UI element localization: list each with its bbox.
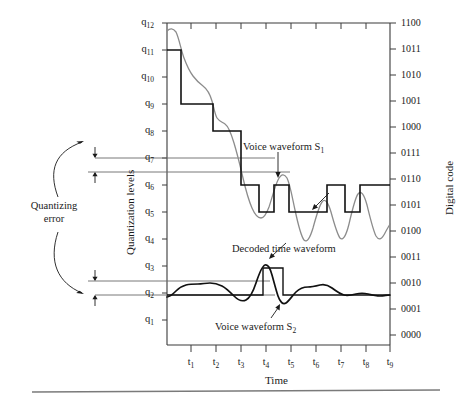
voice-s1-leader — [275, 152, 280, 178]
y-tick-label-q8: q8 — [128, 125, 154, 138]
lower-error-guides — [88, 270, 275, 306]
y2-tick-label-1011: 1011 — [401, 44, 421, 54]
quantizing-error-line-2: error — [17, 214, 91, 225]
y2-tick-label-0100: 0100 — [401, 226, 421, 236]
x-ticks — [191, 345, 390, 352]
x-tick-label-t8: t8 — [356, 357, 376, 370]
x-tick-label-t5: t5 — [281, 357, 301, 370]
bottom-rule — [32, 390, 440, 392]
voice-waveform-s2-curve — [167, 265, 390, 304]
y2-tick-label-1000: 1000 — [401, 122, 421, 132]
y2-tick-label-1010: 1010 — [401, 70, 421, 80]
x-tick-label-t9: t9 — [380, 357, 400, 370]
pcm-quantization-figure: q12 q11 q10 q9 q8 q7 q6 q5 q4 q3 q2 q1 1… — [0, 0, 467, 408]
y-tick-label-q3: q3 — [128, 260, 154, 273]
y2-tick-label-1001: 1001 — [401, 96, 421, 106]
y2-tick-label-0010: 0010 — [401, 278, 421, 288]
y2-tick-label-0101: 0101 — [401, 200, 421, 210]
x-tick-label-t3: t3 — [231, 357, 251, 370]
y2-tick-label-0001: 0001 — [401, 304, 421, 314]
annotation-voice-waveform-s1: Voice waveform S1 — [243, 142, 324, 155]
voice-waveform-s1-curve — [167, 29, 390, 241]
y2-tick-label-1100: 1100 — [401, 18, 421, 28]
y-tick-label-q10: q10 — [128, 71, 154, 84]
x-tick-label-t7: t7 — [331, 357, 351, 370]
top-ticks — [191, 23, 366, 29]
y2-axis-title: Digital code — [444, 161, 455, 215]
y-tick-label-q1: q1 — [128, 314, 154, 327]
quantizing-error-line-1: Quantizing — [17, 201, 91, 212]
x-tick-label-t4: t4 — [256, 357, 276, 370]
quantized-staircase — [167, 50, 390, 212]
y2-tick-label-0011: 0011 — [401, 252, 421, 262]
y-tick-label-q7: q7 — [128, 152, 154, 165]
y-right-ticks — [390, 23, 396, 335]
y-left-ticks — [162, 23, 167, 320]
annotation-voice-waveform-s2: Voice waveform S2 — [215, 322, 296, 335]
x-tick-label-t2: t2 — [206, 357, 226, 370]
y-axis-title: Quantization levels — [125, 170, 136, 255]
y2-tick-label-0000: 0000 — [401, 330, 421, 340]
x-axis-title: Time — [265, 375, 288, 386]
y-tick-label-q11: q11 — [128, 44, 154, 57]
y-tick-label-q12: q12 — [128, 17, 154, 30]
x-tick-label-t1: t1 — [181, 357, 201, 370]
y2-tick-label-0110: 0110 — [401, 174, 421, 184]
y-tick-label-q9: q9 — [128, 98, 154, 111]
annotation-decoded-time-waveform: Decoded time waveform — [232, 244, 336, 255]
x-tick-label-t6: t6 — [306, 357, 326, 370]
decoded-time-waveform — [167, 268, 390, 295]
voice-s2-leader — [271, 304, 280, 318]
y2-tick-label-0111: 0111 — [401, 148, 420, 158]
annotation-quantizing-error: Quantizing error — [17, 201, 91, 224]
y-tick-label-q2: q2 — [128, 287, 154, 300]
